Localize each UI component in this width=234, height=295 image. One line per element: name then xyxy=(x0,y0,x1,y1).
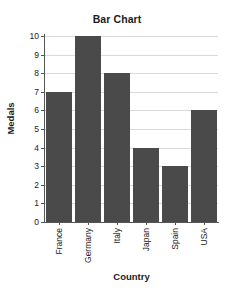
y-axis-title: Medals xyxy=(5,89,16,149)
x-tick-label: USA xyxy=(199,228,208,245)
x-tick-label: Italy xyxy=(113,228,122,244)
bar-slot xyxy=(103,36,132,222)
x-tick-mark xyxy=(146,222,147,225)
x-tick-slot: USA xyxy=(189,222,218,272)
x-tick-label: Japan xyxy=(142,228,151,251)
bar[interactable] xyxy=(133,148,159,222)
x-tick-slot: Italy xyxy=(103,222,132,272)
y-tick-label: 2 xyxy=(34,181,39,190)
bar-chart-figure: Bar Chart 109876543210 FranceGermanyItal… xyxy=(0,0,234,295)
x-tick-slot: Japan xyxy=(131,222,160,272)
y-tick-label: 5 xyxy=(34,125,39,134)
x-tick-label: Germany xyxy=(84,228,93,263)
bar-slot xyxy=(74,36,103,222)
bar-slot xyxy=(160,36,189,222)
bar[interactable] xyxy=(75,36,101,222)
x-tick-label: Spain xyxy=(170,228,179,250)
y-tick-label: 9 xyxy=(34,50,39,59)
bar[interactable] xyxy=(104,73,130,222)
y-tick-label: 4 xyxy=(34,143,39,152)
x-tick-mark xyxy=(59,222,60,225)
plot-area xyxy=(45,36,218,222)
y-tick-label: 3 xyxy=(34,162,39,171)
bar-slot xyxy=(131,36,160,222)
x-tick-slot: France xyxy=(45,222,74,272)
y-tick-label: 0 xyxy=(34,218,39,227)
bar[interactable] xyxy=(162,166,188,222)
x-tick-slot: Germany xyxy=(74,222,103,272)
y-tick-label: 10 xyxy=(30,32,39,41)
y-tick-label: 8 xyxy=(34,69,39,78)
x-axis-title: Country xyxy=(45,271,218,282)
bars-layer xyxy=(45,36,218,222)
x-axis-ticks: FranceGermanyItalyJapanSpainUSA xyxy=(45,222,218,272)
y-tick-label: 7 xyxy=(34,88,39,97)
x-tick-mark xyxy=(117,222,118,225)
bar[interactable] xyxy=(46,92,72,222)
x-tick-mark xyxy=(175,222,176,225)
x-tick-mark xyxy=(88,222,89,225)
x-tick-slot: Spain xyxy=(160,222,189,272)
y-tick-label: 1 xyxy=(34,199,39,208)
y-tick-label: 6 xyxy=(34,106,39,115)
bar-slot xyxy=(189,36,218,222)
bar-slot xyxy=(45,36,74,222)
x-tick-label: France xyxy=(55,228,64,254)
bar[interactable] xyxy=(191,110,217,222)
x-tick-mark xyxy=(204,222,205,225)
